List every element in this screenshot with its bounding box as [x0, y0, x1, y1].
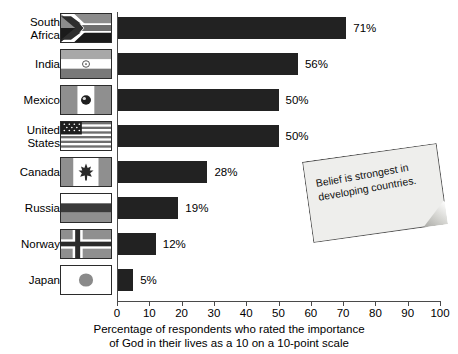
bar-value-label: 12% [163, 238, 186, 250]
country-label: Mexico [0, 94, 60, 107]
bar [117, 269, 133, 291]
chart-row: Japan 5% [0, 264, 458, 296]
x-axis-tick [214, 301, 215, 306]
x-axis-tick-label: 60 [304, 307, 317, 319]
bar [117, 161, 207, 183]
bar [117, 125, 279, 147]
x-axis-tick [375, 301, 376, 306]
bar-value-label: 71% [353, 22, 376, 34]
x-axis-caption-line2: of God in their lives as a 10 on a 10-po… [0, 336, 458, 350]
chart-row: Mexico 50% [0, 84, 458, 116]
flag-canada-icon [60, 157, 112, 187]
bar [117, 17, 346, 39]
flag-united-states-icon [60, 121, 112, 151]
x-axis-tick-label: 70 [337, 307, 350, 319]
bar [117, 53, 298, 75]
bar-value-label: 50% [286, 130, 309, 142]
country-label: India [0, 58, 60, 71]
flag-south-africa-icon [60, 13, 112, 43]
bar-value-label: 28% [214, 166, 237, 178]
bar-value-label: 50% [286, 94, 309, 106]
x-axis-tick-label: 100 [430, 307, 449, 319]
x-axis-tick-label: 50 [272, 307, 285, 319]
bar [117, 197, 178, 219]
country-label: Russia [0, 202, 60, 215]
country-label: SouthAfrica [0, 16, 60, 41]
country-label: Japan [0, 274, 60, 287]
country-label: UnitedStates [0, 124, 60, 149]
country-label: Canada [0, 166, 60, 179]
x-axis-caption: Percentage of respondents who rated the … [0, 322, 458, 350]
x-axis-tick-label: 40 [240, 307, 253, 319]
bar [117, 89, 279, 111]
bar [117, 233, 156, 255]
x-axis-tick-label: 80 [369, 307, 382, 319]
x-axis-tick [408, 301, 409, 306]
bar-value-label: 56% [305, 58, 328, 70]
chart-row: UnitedStates 50% [0, 120, 458, 152]
bar-value-label: 19% [185, 202, 208, 214]
country-label-line2: States [27, 136, 60, 148]
country-label-line1: United [27, 124, 60, 136]
bar-value-label: 5% [140, 274, 157, 286]
chart-row: SouthAfrica 71% [0, 12, 458, 44]
chart-row: Norway 12% [0, 228, 458, 260]
x-axis-tick-label: 90 [401, 307, 414, 319]
x-axis-tick [117, 301, 118, 306]
y-axis-line [117, 12, 118, 301]
country-label: Norway [0, 238, 60, 251]
flag-russia-icon [60, 193, 112, 223]
country-label-line1: South [30, 16, 60, 28]
x-axis-tick-label: 30 [207, 307, 220, 319]
country-label-line2: Africa [31, 28, 60, 40]
x-axis-tick [279, 301, 280, 306]
flag-norway-icon [60, 229, 112, 259]
bar-chart: SouthAfrica 71% India 56 [0, 0, 458, 354]
x-axis-tick-label: 20 [175, 307, 188, 319]
x-axis-tick [440, 301, 441, 306]
flag-india-icon [60, 49, 112, 79]
x-axis-tick [182, 301, 183, 306]
x-axis-tick-label: 10 [143, 307, 156, 319]
flag-mexico-icon [60, 85, 112, 115]
x-axis-caption-line1: Percentage of respondents who rated the … [0, 322, 458, 336]
chart-row: India 56% [0, 48, 458, 80]
x-axis-tick [149, 301, 150, 306]
x-axis-tick [246, 301, 247, 306]
x-axis-tick-label: 0 [114, 307, 120, 319]
x-axis-tick [311, 301, 312, 306]
flag-japan-icon [60, 265, 112, 295]
x-axis-tick [343, 301, 344, 306]
